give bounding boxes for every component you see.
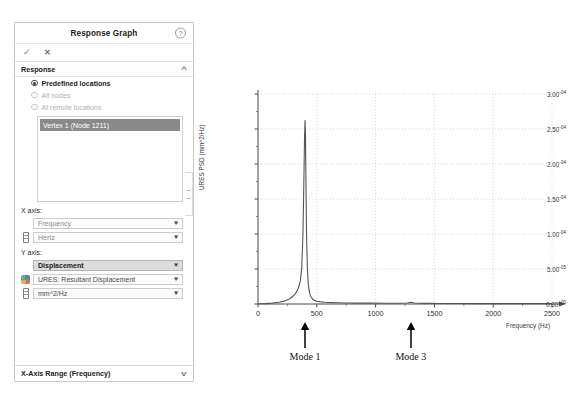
y-axis-title: URES PSD (mm^2/Hz) xyxy=(198,125,205,191)
x-axis-tick-label: 2000 xyxy=(485,309,501,318)
y-axis-tick-label: 0.00+00 xyxy=(514,300,566,308)
panel-resize-handle[interactable] xyxy=(185,172,193,216)
close-icon[interactable]: ✕ xyxy=(44,49,51,57)
section-title: X-Axis Range (Frequency) xyxy=(21,369,110,378)
y-axis-tick-label: 2.50-04 xyxy=(514,125,566,133)
y-axis-component-select[interactable]: URES: Resultant Displacement ▼ xyxy=(33,274,183,285)
response-graph-property-panel: Response Graph ? ✓ ✕ Response ^ Predefin… xyxy=(14,22,194,382)
radio-label: At remote locations xyxy=(42,104,102,111)
y-axis-quantity-row: Displacement ▼ xyxy=(15,258,193,272)
x-axis-unit-row: Hertz ▼ xyxy=(15,230,193,244)
section-header-response[interactable]: Response ^ xyxy=(15,62,193,77)
up-arrow-icon xyxy=(406,322,415,352)
mode-annotation-label: Mode 3 xyxy=(395,351,426,362)
y-axis-tick-label: 5.00-05 xyxy=(514,265,566,273)
radio-icon[interactable] xyxy=(31,104,38,111)
response-graph-chart: URES PSD (mm^2/Hz) 0.00+005.00-051.00-04… xyxy=(200,78,566,378)
y-axis-tick-label: 3.00-04 xyxy=(514,90,566,98)
radio-icon[interactable] xyxy=(31,92,38,99)
x-axis-title: Frequency (Hz) xyxy=(506,322,550,329)
radio-predefined-locations[interactable]: Predefined locations xyxy=(15,77,193,89)
check-icon[interactable]: ✓ xyxy=(23,48,31,57)
x-axis-tick-label: 1000 xyxy=(368,309,384,318)
radio-all-nodes[interactable]: All nodes xyxy=(15,89,193,101)
mode-annotation-label: Mode 1 xyxy=(290,351,321,362)
y-axis-component-row: URES: Resultant Displacement ▼ xyxy=(15,272,193,286)
list-item[interactable]: Vertex 1 (Node 1211) xyxy=(40,119,180,131)
y-axis-quantity-select[interactable]: Displacement ▼ xyxy=(33,260,183,271)
y-axis-label: Y axis: xyxy=(15,244,193,258)
radio-label: All nodes xyxy=(42,92,71,99)
x-axis-quantity-row: Frequency ▼ xyxy=(15,216,193,230)
section-header-x-axis-range[interactable]: X-Axis Range (Frequency) v xyxy=(15,365,193,381)
y-axis-unit-row: mm^2/Hz ▼ xyxy=(15,286,193,300)
radio-at-remote-locations[interactable]: At remote locations xyxy=(15,101,193,113)
x-axis-quantity-select[interactable]: Frequency ▼ xyxy=(33,218,183,229)
y-axis-unit-select[interactable]: mm^2/Hz ▼ xyxy=(33,288,183,299)
y-axis-tick-label: 1.50-04 xyxy=(514,195,566,203)
section-title: Response xyxy=(21,65,55,74)
page-title: Response Graph xyxy=(71,29,138,38)
panel-action-bar: ✓ ✕ xyxy=(15,44,193,62)
x-axis-tick-label: 2500 xyxy=(544,309,560,318)
x-axis-label: X axis: xyxy=(15,202,193,216)
x-axis-tick-label: 0 xyxy=(256,309,260,318)
radio-icon[interactable] xyxy=(31,80,38,87)
x-axis-tick-label: 1500 xyxy=(426,309,442,318)
y-axis-tick-label: 1.00-04 xyxy=(514,230,566,238)
chevron-down-icon[interactable]: v xyxy=(181,370,186,377)
chevron-down-icon[interactable]: ▼ xyxy=(172,234,179,240)
result-component-icon xyxy=(21,274,30,284)
x-axis-unit-select[interactable]: Hertz ▼ xyxy=(33,232,183,243)
chevron-down-icon[interactable]: ▼ xyxy=(172,262,179,268)
ruler-icon xyxy=(21,232,30,242)
chevron-down-icon[interactable]: ▼ xyxy=(172,276,179,282)
chevron-up-icon[interactable]: ^ xyxy=(181,66,187,73)
chevron-down-icon[interactable]: ▼ xyxy=(172,220,179,226)
y-axis-component-value: URES: Resultant Displacement xyxy=(38,276,135,283)
y-axis-unit-value: mm^2/Hz xyxy=(38,290,67,297)
panel-title-bar: Response Graph ? xyxy=(15,23,193,44)
radio-label: Predefined locations xyxy=(42,80,111,87)
up-arrow-icon xyxy=(301,322,310,352)
ruler-icon xyxy=(21,288,30,298)
plot-area xyxy=(200,78,566,378)
x-axis-quantity-value: Frequency xyxy=(38,220,71,227)
x-axis-unit-value: Hertz xyxy=(38,234,55,241)
location-listbox[interactable]: Vertex 1 (Node 1211) xyxy=(37,116,183,202)
x-axis-tick-label: 500 xyxy=(311,309,323,318)
y-axis-quantity-value: Displacement xyxy=(38,262,84,269)
y-axis-tick-label: 2.00-04 xyxy=(514,160,566,168)
chevron-down-icon[interactable]: ▼ xyxy=(172,290,179,296)
help-icon[interactable]: ? xyxy=(175,28,186,39)
